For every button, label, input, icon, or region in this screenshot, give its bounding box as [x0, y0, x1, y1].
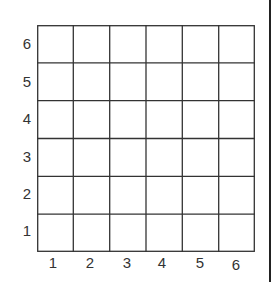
x-label-6: 6 — [226, 256, 246, 273]
y-label-6: 6 — [20, 35, 34, 52]
x-label-2: 2 — [80, 254, 100, 271]
right-border — [269, 0, 271, 282]
x-label-5: 5 — [190, 254, 210, 271]
coordinate-grid — [37, 25, 255, 252]
x-label-3: 3 — [117, 254, 137, 271]
x-label-4: 4 — [152, 254, 172, 271]
y-label-2: 2 — [20, 185, 34, 202]
grid-lines — [37, 25, 255, 252]
x-label-1: 1 — [43, 254, 63, 271]
y-label-3: 3 — [20, 148, 34, 165]
y-label-4: 4 — [20, 110, 34, 127]
y-label-5: 5 — [20, 73, 34, 90]
y-label-1: 1 — [20, 222, 34, 239]
